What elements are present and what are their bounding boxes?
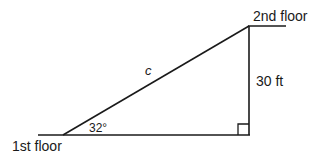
triangle-diagram: 2nd floor 30 ft c 32° 1st floor	[0, 0, 328, 156]
bottom-floor-label: 1st floor	[12, 138, 62, 154]
top-floor-label: 2nd floor	[253, 8, 308, 24]
hypotenuse-label: c	[145, 63, 152, 78]
angle-label: 32°	[89, 121, 107, 135]
hypotenuse	[63, 26, 249, 135]
right-angle-marker	[238, 124, 249, 135]
vertical-side-label: 30 ft	[256, 73, 283, 89]
